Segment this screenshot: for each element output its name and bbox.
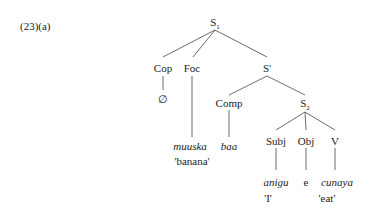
v-gloss: 'eat' [319,192,336,204]
node-sbar: S' [263,62,271,74]
obj-word: e [304,176,309,188]
node-obj: Obj [298,135,315,147]
node-subj: Subj [266,135,286,147]
node-v: V [331,135,339,147]
node-s1: S1 [210,16,220,33]
tree-edges [0,0,371,216]
node-cop: Cop [154,62,172,74]
foc-word: muuska [173,140,207,152]
node-s2: S2 [300,97,310,114]
foc-gloss: 'banana' [174,155,209,167]
subj-word: anigu [263,176,288,188]
v-word: cunaya [321,176,353,188]
comp-word: baa [221,140,238,152]
node-foc: Foc [184,62,201,74]
node-comp: Comp [216,97,243,109]
subj-gloss: 'I' [264,192,272,204]
null-cop: ∅ [158,93,168,105]
